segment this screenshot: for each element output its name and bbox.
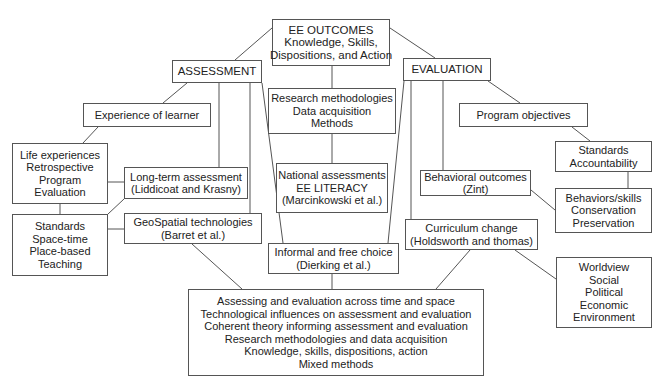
life-experiences-box: Life experiences Retrospective Program E… (12, 143, 108, 204)
worldview-line: Environment (573, 311, 635, 324)
life-line: Evaluation (34, 186, 85, 199)
curriculum-line: (Holdsworth and thomas) (410, 235, 533, 248)
national-line: EE LITERACY (296, 182, 368, 195)
behaviors-skills-box: Behaviors/skills Conservation Preservati… (555, 188, 652, 233)
curriculum-change-box: Curriculum change (Holdsworth and thomas… (405, 219, 538, 250)
experience-of-learner-box: Experience of learner (83, 103, 211, 127)
ee-outcomes-box: EE OUTCOMES Knowledge, Skills, Dispositi… (272, 19, 390, 66)
assessment-box: ASSESSMENT (172, 60, 262, 83)
summary-line: Mixed methods (299, 358, 374, 371)
program-objectives-label: Program objectives (476, 109, 570, 122)
research-line: Data acquisition (293, 105, 371, 118)
summary-line: Coherent theory informing assessment and… (204, 320, 468, 333)
national-assessments-box: National assessments EE LITERACY (Marcin… (276, 163, 388, 213)
ee-outcomes-line: EE OUTCOMES (289, 24, 374, 37)
summary-line: Research methodologies and data acquisit… (225, 333, 448, 346)
long-term-assessment-box: Long-term assessment (Liddicoat and Kras… (124, 167, 248, 199)
program-objectives-box: Program objectives (459, 103, 588, 127)
behavioral-line: Behavioral outcomes (424, 171, 527, 184)
informal-line: (Dierking et al.) (296, 259, 371, 272)
summary-line: Technological influences on assessment a… (201, 308, 472, 321)
evaluation-label: EVALUATION (411, 63, 482, 76)
long-term-line: (Liddicoat and Krasny) (131, 183, 241, 196)
worldview-line: Social (589, 274, 619, 287)
behaviors-line: Preservation (573, 217, 635, 230)
assessment-label: ASSESSMENT (178, 65, 257, 78)
summary-line: Assessing and evaluation across time and… (217, 295, 455, 308)
behavioral-outcomes-box: Behavioral outcomes (Zint) (420, 170, 531, 196)
accountability-line: Standards (578, 144, 628, 157)
summary-line: Knowledge, skills, dispositions, action (244, 345, 427, 358)
worldview-line: Political (585, 286, 623, 299)
geospatial-line: GeoSpatial technologies (133, 216, 252, 229)
long-term-line: Long-term assessment (130, 171, 242, 184)
curriculum-line: Curriculum change (425, 222, 517, 235)
research-line: Methods (311, 117, 353, 130)
ee-outcomes-line: Dispositions, and Action (270, 49, 392, 62)
worldview-box: Worldview Social Political Economic Envi… (556, 257, 652, 328)
standards-space-time-box: Standards Space-time Place-based Teachin… (12, 214, 108, 276)
summary-box: Assessing and evaluation across time and… (188, 289, 484, 376)
life-line: Life experiences (20, 149, 100, 162)
standards-line: Place-based (29, 245, 90, 258)
research-methodologies-box: Research methodologies Data acquisition … (268, 88, 396, 134)
informal-line: Informal and free choice (274, 246, 392, 259)
life-line: Retrospective (26, 161, 93, 174)
accountability-line: Accountability (570, 157, 638, 170)
national-line: (Marcinkowski et al.) (282, 194, 382, 207)
evaluation-box: EVALUATION (403, 58, 491, 81)
worldview-line: Economic (580, 299, 628, 312)
worldview-line: Worldview (579, 261, 630, 274)
standards-line: Teaching (38, 258, 82, 271)
life-line: Program (39, 174, 81, 187)
standards-line: Standards (35, 220, 85, 233)
informal-free-choice-box: Informal and free choice (Dierking et al… (268, 243, 399, 274)
standards-line: Space-time (32, 233, 88, 246)
behaviors-line: Conservation (571, 204, 636, 217)
behaviors-line: Behaviors/skills (566, 192, 642, 205)
experience-label: Experience of learner (95, 109, 200, 122)
research-line: Research methodologies (271, 92, 393, 105)
ee-outcomes-line: Knowledge, Skills, (284, 36, 377, 49)
standards-accountability-box: Standards Accountability (555, 141, 652, 172)
national-line: National assessments (278, 169, 386, 182)
geospatial-box: GeoSpatial technologies (Barret et al.) (124, 213, 262, 244)
geospatial-line: (Barret et al.) (161, 229, 225, 242)
behavioral-line: (Zint) (463, 183, 489, 196)
